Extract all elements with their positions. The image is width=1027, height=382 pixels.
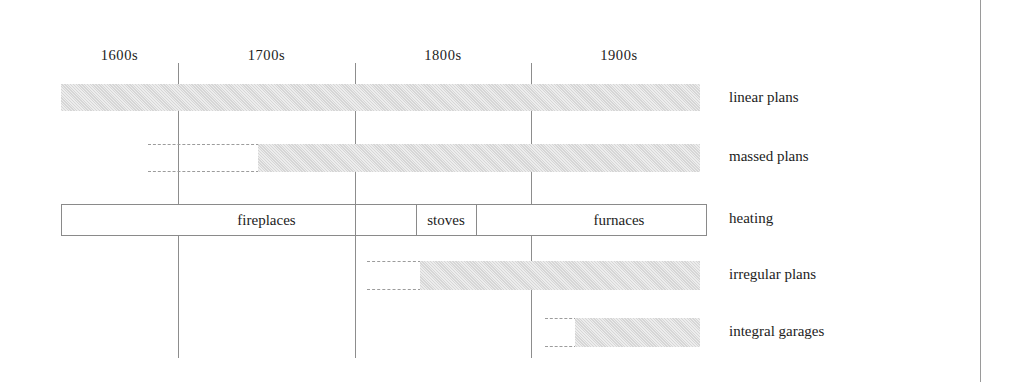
heating-divider-stoves-end (476, 204, 477, 236)
row-label-integral-garages: integral garages (729, 321, 824, 341)
row-label-irregular-plans: irregular plans (729, 264, 816, 284)
bar-massed-plans (258, 144, 700, 172)
dash-lead-massed-plans-top (148, 144, 259, 145)
heating-divider-fireplaces-end (355, 204, 356, 236)
timeline-chart: 1600s 1700s 1800s 1900s linear plans mas… (0, 0, 1027, 382)
era-label-1700s: 1700s (178, 46, 355, 64)
dash-lead-irregular-plans-top (367, 261, 421, 262)
heating-segment-stoves: stoves (416, 205, 476, 235)
era-label-1600s: 1600s (61, 46, 178, 64)
bar-integral-garages (575, 318, 700, 347)
bar-linear-plans (61, 84, 700, 111)
heating-segment-fireplaces: fireplaces (178, 205, 355, 235)
row-label-massed-plans: massed plans (729, 146, 809, 166)
heating-segment-furnaces: furnaces (531, 205, 707, 235)
bar-irregular-plans (420, 261, 700, 290)
page-edge-rule (980, 0, 981, 382)
row-label-heating: heating (729, 208, 773, 228)
dash-lead-integral-garages-top (545, 318, 577, 319)
dash-lead-irregular-plans-bottom (367, 289, 421, 290)
era-label-1900s: 1900s (531, 46, 707, 64)
era-label-1800s: 1800s (355, 46, 531, 64)
dash-lead-massed-plans-bottom (148, 171, 259, 172)
row-label-linear-plans: linear plans (729, 87, 799, 107)
dash-lead-integral-garages-bottom (545, 346, 577, 347)
